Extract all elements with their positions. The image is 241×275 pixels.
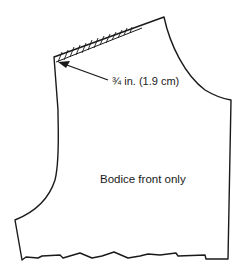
bodice-pattern-diagram	[0, 0, 241, 275]
measurement-label: ¾ in. (1.9 cm)	[112, 75, 179, 87]
piece-label: Bodice front only	[100, 173, 186, 185]
seam-line	[56, 28, 142, 62]
bodice-outline	[15, 17, 231, 260]
arrow-icon	[58, 61, 108, 80]
